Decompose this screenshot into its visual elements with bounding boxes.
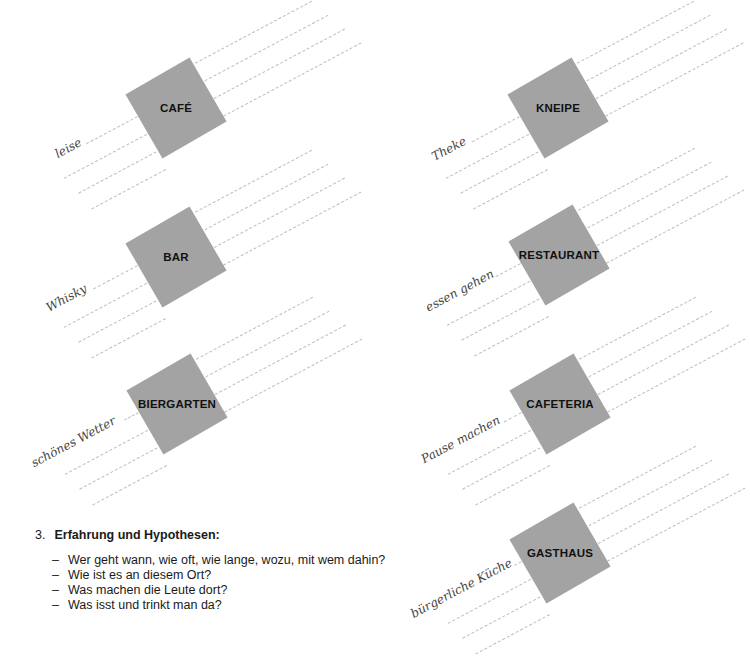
write-line[interactable] <box>223 192 361 266</box>
handwritten-word: bürgerliche Küche <box>408 556 514 621</box>
write-line[interactable] <box>605 43 743 117</box>
write-line[interactable] <box>91 169 166 209</box>
handwritten-word: Whisky <box>44 281 90 314</box>
task-question: Was isst und trinkt man da? <box>52 598 385 613</box>
place-square: RESTAURANT <box>508 204 609 305</box>
place-square: BAR <box>125 206 226 307</box>
place-label: BAR <box>163 251 189 263</box>
write-line[interactable] <box>79 447 157 489</box>
handwritten-word: Pause machen <box>419 413 503 466</box>
write-line[interactable] <box>460 151 538 193</box>
write-line[interactable] <box>474 316 549 356</box>
place-square: CAFETERIA <box>509 353 610 454</box>
write-line[interactable] <box>496 263 521 277</box>
task-number: 3. <box>35 528 51 542</box>
task-question: Wer geht wann, wie oft, wie lange, wozu,… <box>52 553 385 568</box>
write-line[interactable] <box>475 465 550 505</box>
write-line[interactable] <box>92 465 167 505</box>
write-line[interactable] <box>472 116 520 142</box>
write-line[interactable] <box>462 447 540 489</box>
place-square: KNEIPE <box>507 57 608 158</box>
write-line[interactable] <box>91 318 166 358</box>
handwritten-word: Theke <box>429 134 468 164</box>
handwritten-word: essen gehen <box>423 267 496 315</box>
write-line[interactable] <box>607 339 745 413</box>
write-line[interactable] <box>93 265 138 289</box>
task-heading: 3. Erfahrung und Hypothesen: <box>35 528 220 542</box>
write-line[interactable] <box>475 614 550 654</box>
place-square: BIERGARTEN <box>126 353 227 454</box>
place-square: CAFÉ <box>125 57 226 158</box>
write-line[interactable] <box>473 169 548 209</box>
handwritten-word: leise <box>53 135 84 161</box>
write-line[interactable] <box>504 412 522 422</box>
write-line[interactable] <box>224 339 362 413</box>
place-label: BIERGARTEN <box>138 398 216 410</box>
write-line[interactable] <box>514 561 522 566</box>
place-label: CAFÉ <box>160 102 192 114</box>
task-question-list: Wer geht wann, wie oft, wie lange, wozu,… <box>52 553 385 613</box>
place-label: CAFETERIA <box>526 398 594 410</box>
place-label: RESTAURANT <box>519 249 599 261</box>
write-line[interactable] <box>223 43 361 117</box>
write-line[interactable] <box>124 412 139 420</box>
task-question: Wie ist es an diesem Ort? <box>52 568 385 583</box>
place-square: GASTHAUS <box>509 502 610 603</box>
write-line[interactable] <box>606 190 744 264</box>
write-line[interactable] <box>461 298 539 340</box>
write-line[interactable] <box>86 116 138 144</box>
write-line[interactable] <box>462 596 540 638</box>
task-title: Erfahrung und Hypothesen: <box>54 528 219 542</box>
handwritten-word: schönes Wetter <box>29 414 118 470</box>
write-line[interactable] <box>78 300 156 342</box>
place-label: KNEIPE <box>536 102 580 114</box>
place-label: GASTHAUS <box>527 547 593 559</box>
task-question: Was machen die Leute dort? <box>52 583 385 598</box>
write-line[interactable] <box>607 488 745 562</box>
write-line[interactable] <box>78 151 156 193</box>
